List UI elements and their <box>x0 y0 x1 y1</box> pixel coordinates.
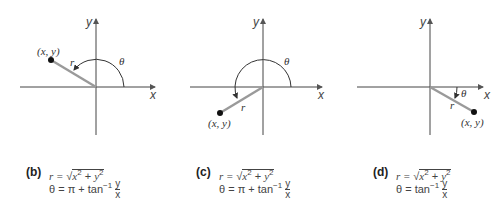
point-marker <box>48 57 54 63</box>
r-label: r <box>70 56 75 68</box>
point-label: (x, y) <box>37 45 60 58</box>
theta-label: θ <box>284 55 290 67</box>
point-label: (x, y) <box>461 116 484 129</box>
panel-c-diagram: (x, y) r θ y x <box>190 15 325 135</box>
theta-arc <box>455 87 457 98</box>
r-label: r <box>450 99 455 111</box>
panel-d-diagram: (x, y) r θ y x <box>357 15 491 135</box>
theta-label: θ <box>461 87 467 99</box>
point-marker <box>471 109 477 115</box>
fraction: yx <box>115 179 120 200</box>
panel-tag: (d) <box>373 166 388 179</box>
r-label: r <box>241 101 246 113</box>
theta-formula: θ = π + tan−1 yx <box>219 179 290 200</box>
theta-formula: θ = tan−1 yx <box>396 179 447 200</box>
y-axis-label: y <box>419 15 427 29</box>
panel-tag: (b) <box>26 166 41 179</box>
theta-label: θ <box>119 55 125 67</box>
theta-formula: θ = π + tan−1 yx <box>49 179 120 200</box>
y-axis-label: y <box>85 15 93 29</box>
x-axis-label: x <box>483 88 491 102</box>
panel-d-formula: (d) r = √x2 + y2 θ = tan−1 yx <box>373 166 493 206</box>
panel-b-formula: (b) r = √x2 + y2 θ = π + tan−1 yx <box>26 166 156 206</box>
x-axis-label: x <box>317 88 325 102</box>
point-marker <box>217 110 223 116</box>
panel-b-diagram: (x, y) r θ y x <box>20 15 157 135</box>
x-axis-label: x <box>149 88 157 102</box>
fraction: yx <box>442 179 447 200</box>
theta-arc <box>74 59 124 87</box>
point-label: (x, y) <box>208 117 231 130</box>
y-axis-label: y <box>252 15 260 29</box>
fraction: yx <box>285 179 290 200</box>
panel-c-formula: (c) r = √x2 + y2 θ = π + tan−1 yx <box>196 166 326 206</box>
panel-tag: (c) <box>196 166 211 179</box>
